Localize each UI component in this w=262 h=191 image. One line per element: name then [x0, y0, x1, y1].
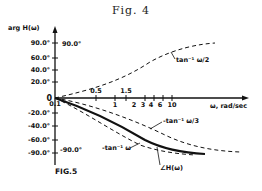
y-tick-label: 90.0° — [31, 39, 50, 47]
y-tick-label: -60.0° — [28, 136, 50, 144]
x-tick-label: 4 — [149, 101, 154, 109]
y-axis-label: arg H(ω) — [8, 24, 40, 32]
phase-plot: 90.0° 60.0° 40.0° 20.0° 0 -20.0° -40.0° … — [0, 0, 262, 191]
series-tan-w-over-2 — [55, 43, 215, 98]
y-axis-arrow-icon — [53, 26, 58, 33]
figure-caption: FIG.5 — [55, 167, 77, 176]
y-tick-label: 40.0° — [31, 66, 50, 74]
x-tick-label: 1 — [113, 101, 118, 109]
x-axis-arrow-icon — [242, 96, 249, 101]
y-tick-label: -40.0° — [28, 122, 50, 130]
x-tick-label: 2 — [132, 101, 137, 109]
annotation-90: 90.0° — [62, 40, 81, 48]
x-tick-label: 1.5 — [120, 87, 132, 95]
x-tick-label: 10 — [167, 101, 177, 109]
annotation-tan-w-2: tan⁻¹ ω/2 — [176, 56, 209, 64]
y-tick-label: 20.0° — [31, 78, 50, 86]
y-tick-label: -90.0° — [28, 149, 50, 157]
x-tick-label: 0.1 — [49, 100, 61, 108]
annotation-neg-90: -90.0° — [60, 146, 82, 154]
x-tick-label: 6 — [158, 101, 163, 109]
y-tick-label: -20.0° — [28, 109, 50, 117]
x-axis-label: ω, rad/sec — [210, 102, 247, 110]
annotation-neg-tan-w-3: -tan⁻¹ ω/3 — [163, 117, 199, 125]
annotation-neg-tan-w: -tan⁻¹ ω — [102, 144, 131, 152]
x-tick-label: 3 — [141, 101, 146, 109]
y-tick-label: 60.0° — [31, 54, 50, 62]
annotation-arg-h: ∠H(ω) — [160, 164, 183, 172]
